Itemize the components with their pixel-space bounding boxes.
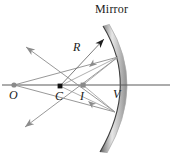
ray-incident-lower [14, 85, 115, 112]
arrow-reflected-up-head-icon [24, 44, 35, 55]
radius-label: R [73, 41, 80, 53]
point-object-O [11, 82, 16, 87]
image-point-label: I [80, 90, 84, 102]
ray-reflected-lower [26, 47, 115, 112]
radius-to-mirror-lower [60, 86, 115, 112]
center-point-label: C [55, 90, 63, 102]
object-point-label: O [9, 89, 18, 101]
reflected-rays [25, 47, 118, 127]
arrow-reflected-down-head-icon [23, 119, 34, 130]
vertex-point-label: V [113, 88, 120, 100]
ray-incident-upper [14, 57, 118, 85]
radius-to-mirror-upper [60, 57, 118, 86]
point-image-I [81, 83, 86, 88]
radius-lines [60, 39, 118, 112]
ray-diagram-canvas [0, 0, 172, 157]
chord-upper-to-image [83, 57, 118, 85]
ray-diagram-figure: Mirror R O C I V [0, 0, 172, 157]
mirror-label: Mirror [95, 3, 128, 15]
point-center-C [58, 84, 63, 89]
